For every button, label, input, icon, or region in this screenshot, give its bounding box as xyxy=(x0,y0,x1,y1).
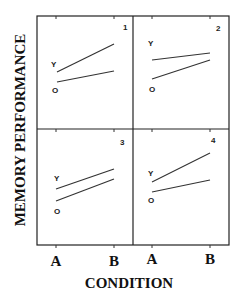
label-o: O xyxy=(52,86,58,95)
x-tick-a-left: A xyxy=(51,253,62,269)
line-old xyxy=(57,71,114,82)
line-old xyxy=(152,60,210,79)
panel-4: 4 Y O xyxy=(148,136,216,205)
label-o: O xyxy=(148,196,154,205)
x-tick-b-left: B xyxy=(109,253,119,269)
panel-2: 2 Y O xyxy=(148,24,221,94)
panel-1: 1 Y O xyxy=(51,23,128,95)
panel-number: 4 xyxy=(211,136,216,145)
label-y: Y xyxy=(54,174,60,183)
line-young xyxy=(152,53,210,60)
panel-number: 3 xyxy=(120,138,125,147)
label-y: Y xyxy=(148,169,154,178)
line-young xyxy=(57,44,114,72)
line-young xyxy=(56,169,114,189)
panel-number: 1 xyxy=(123,23,128,32)
label-o: O xyxy=(54,207,60,216)
chart-figure: MEMORY PERFORMANCE 1 Y O 2 Y O 3 xyxy=(0,0,242,301)
label-y: Y xyxy=(51,60,57,69)
x-tick-b-right: B xyxy=(205,251,215,267)
y-axis-label: MEMORY PERFORMANCE xyxy=(12,34,28,227)
panel-3: 3 Y O xyxy=(54,138,125,216)
label-o: O xyxy=(149,85,155,94)
x-axis-label: CONDITION xyxy=(85,275,174,291)
line-old xyxy=(56,179,114,201)
label-y: Y xyxy=(148,39,154,48)
line-young xyxy=(152,153,210,182)
x-tick-a-right: A xyxy=(147,251,158,267)
panel-number: 2 xyxy=(216,24,221,33)
line-old xyxy=(152,180,210,192)
